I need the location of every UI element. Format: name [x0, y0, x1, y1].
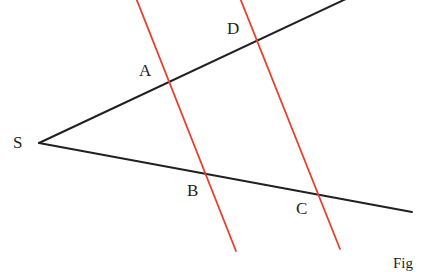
- upper-ray-line: [39, 0, 348, 143]
- figure-canvas: [0, 0, 425, 272]
- geometry-figure: S A D B C Fig: [0, 0, 425, 272]
- figure-caption: Fig: [393, 256, 413, 271]
- point-label-c: C: [296, 200, 307, 217]
- transversal-ab-line: [136, 0, 236, 251]
- point-label-b: B: [187, 182, 198, 199]
- lower-ray-line: [39, 143, 412, 212]
- point-label-d: D: [227, 20, 239, 37]
- point-label-s: S: [13, 134, 22, 151]
- transversal-dc-line: [240, 0, 340, 249]
- point-label-a: A: [139, 62, 151, 79]
